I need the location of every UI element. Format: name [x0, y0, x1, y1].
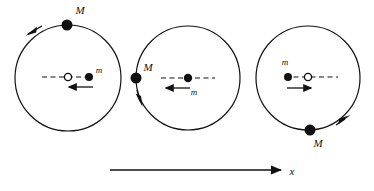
orbit-arrowhead-icon — [338, 115, 351, 125]
x-axis: x — [110, 165, 295, 177]
center-of-mass-marker — [64, 73, 71, 80]
x-axis-label: x — [289, 165, 295, 177]
big-mass-dot — [305, 125, 316, 136]
small-mass-label: m — [96, 65, 103, 75]
big-mass-label: M — [74, 4, 85, 16]
big-mass-dot — [131, 73, 142, 84]
small-mass-dot — [85, 73, 93, 81]
small-mass-label: m — [191, 87, 198, 97]
big-mass-label: M — [312, 137, 323, 149]
small-mass-dot — [284, 73, 292, 81]
small-mass-dot — [184, 74, 192, 82]
big-mass-label: M — [142, 61, 153, 73]
center-of-mass-marker — [304, 73, 311, 80]
panel-right: M m — [256, 26, 360, 149]
orbit-arrowhead-icon — [26, 27, 38, 36]
panel-left: M m — [15, 4, 121, 131]
orbit-arrowhead-icon — [136, 93, 143, 107]
physics-diagram: M m M m M — [0, 0, 374, 191]
figure-canvas: M m M m M — [0, 0, 374, 191]
big-mass-dot — [62, 20, 73, 31]
small-mass-label: m — [282, 57, 289, 67]
panel-middle: M m — [131, 26, 241, 130]
